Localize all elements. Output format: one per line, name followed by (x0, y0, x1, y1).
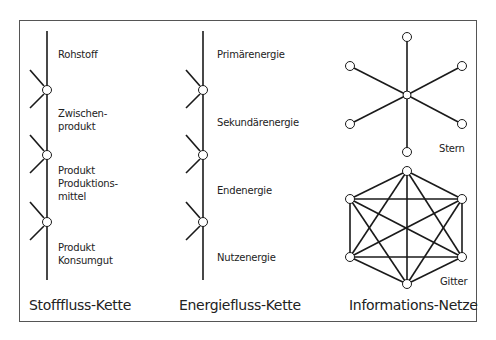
title-energiefluss: Energiefluss-Kette (179, 297, 301, 313)
label-produkt-konsumgut: ProduktKonsumgut (58, 241, 113, 267)
label-rohstoff: Rohstoff (58, 48, 98, 61)
label-nutzenergie: Nutzenergie (217, 251, 276, 264)
label-stern: Stern (439, 142, 465, 155)
label-gitter: Gitter (440, 275, 467, 288)
title-informations-netze: Informations-Netze (349, 297, 478, 313)
mesh-network (350, 171, 462, 284)
label-endenergie: Endenergie (217, 184, 272, 197)
label-zwischenprodukt: Zwischen-produkt (58, 107, 107, 133)
title-stofffluss: Stofffluss-Kette (29, 297, 131, 313)
star-nodes (346, 33, 467, 157)
label-sekundaerenergie: Sekundärenergie (217, 116, 299, 129)
label-primaerenergie: Primärenergie (217, 48, 285, 61)
label-produkt-produktionsmittel: ProduktProduktions-mittel (58, 164, 118, 203)
